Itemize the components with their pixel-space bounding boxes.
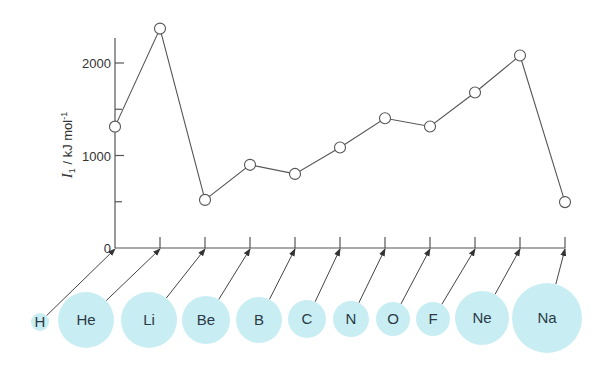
atom-be: Be [182, 296, 230, 344]
connector-arrow [401, 249, 430, 304]
atom-label: Be [197, 311, 215, 328]
atom-label: O [387, 310, 399, 327]
atom-na: Na [512, 283, 582, 353]
connector-arrow [269, 249, 295, 299]
data-point-n [380, 113, 391, 124]
atom-o: O [376, 302, 410, 336]
data-line [115, 29, 565, 203]
atom-label: H [35, 313, 46, 330]
connector-arrow [556, 249, 565, 284]
y-tick-label: 1000 [82, 149, 111, 164]
atom-label: Li [143, 311, 155, 328]
connector-arrow [219, 249, 250, 300]
atom-f: F [416, 302, 450, 336]
atom-ne: Ne [455, 291, 509, 345]
atom-label: C [302, 310, 313, 327]
connector-arrow [495, 249, 520, 294]
y-tick-labels: 010002000 [82, 56, 111, 256]
atom-label: Na [537, 309, 557, 326]
atom-label: Ne [472, 309, 491, 326]
y-tick-label: 2000 [82, 56, 111, 71]
data-series [110, 23, 571, 208]
data-point-f [470, 87, 481, 98]
atom-n: N [333, 301, 369, 337]
atom-he: He [58, 292, 114, 348]
ionization-energy-chart: I1 / kJ mol-1 010002000 HHeLiBeBCNOFNeNa [0, 0, 611, 371]
data-point-h [110, 121, 121, 132]
connector-arrow [166, 249, 205, 298]
atom-label: B [254, 311, 264, 328]
atom-b: B [236, 297, 282, 343]
atom-label: He [76, 311, 95, 328]
data-point-ne [515, 50, 526, 61]
data-point-li [200, 194, 211, 205]
atom-c: C [288, 300, 326, 338]
atom-label: F [428, 310, 437, 327]
atom-h: H [31, 313, 49, 331]
data-point-c [335, 142, 346, 153]
atom-li: Li [121, 292, 177, 348]
y-axis-label: I1 / kJ mol-1 [59, 112, 77, 179]
data-point-he [155, 23, 166, 34]
connector-arrow [359, 249, 385, 303]
atom-label: N [346, 310, 357, 327]
data-point-be [245, 159, 256, 170]
connector-arrow [315, 249, 340, 302]
data-point-b [290, 168, 301, 179]
data-point-na [560, 197, 571, 208]
data-point-o [425, 121, 436, 132]
